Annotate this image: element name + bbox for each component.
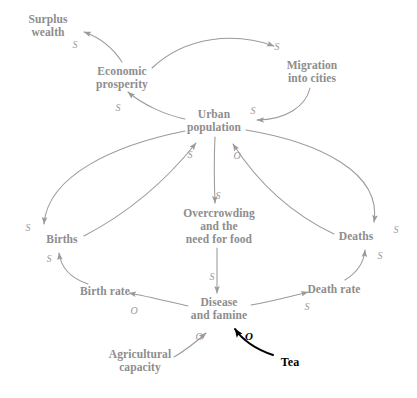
node-label-line: Births (46, 233, 77, 246)
edge-migration-to-urban (257, 88, 310, 120)
node-label-line: Urban (187, 108, 241, 121)
node-deaths: Deaths (339, 230, 373, 243)
node-label-line: capacity (109, 361, 172, 374)
polarity-economic-migration: S (275, 42, 280, 52)
node-label-line: Death rate (307, 283, 360, 296)
polarity-overcrowding-disease: S (210, 272, 215, 282)
node-economic-prosperity: Economic prosperity (96, 65, 148, 91)
edge-urban-to-births (44, 131, 185, 224)
node-urban-population: Urban population (187, 108, 241, 134)
polarity-migration-urban: S (251, 106, 256, 116)
node-label-line: prosperity (96, 78, 148, 91)
node-birth-rate: Birth rate (80, 285, 130, 298)
node-agricultural-capacity: Agricultural capacity (109, 348, 172, 374)
edge-tea-to-disease (235, 329, 273, 355)
polarity-economic-surplus: S (73, 40, 78, 50)
node-death-rate: Death rate (307, 283, 360, 296)
node-label-line: Economic (96, 65, 148, 78)
node-label-line: Overcrowding (183, 207, 255, 220)
edge-economic-to-migration (152, 38, 274, 68)
edge-disease-to-birthrate (129, 293, 188, 306)
node-label-line: Deaths (339, 230, 373, 243)
edge-births-to-urban (84, 143, 196, 236)
node-label-line: population (187, 121, 241, 134)
node-label-line: Migration (287, 59, 338, 72)
polarity-deathrate-deaths: S (378, 251, 383, 261)
node-surplus-wealth: Surplus wealth (28, 13, 67, 39)
edge-urban-to-deaths (246, 130, 375, 222)
node-label-line: need for food (183, 233, 255, 246)
polarity-urban-births: S (26, 223, 31, 233)
edge-urban-to-economic (128, 92, 185, 119)
polarity-deaths-urban: O (233, 151, 240, 161)
polarity-urban-economic: S (116, 103, 121, 113)
node-births: Births (46, 233, 77, 246)
edge-economic-to-surplus (84, 32, 122, 62)
node-label-line: Disease (191, 296, 247, 309)
node-label-line: into cities (287, 72, 338, 85)
node-label-line: and the (183, 220, 255, 233)
annotation-tea: Tea (281, 356, 300, 369)
polarity-urban-deaths: S (394, 225, 399, 235)
node-label-line: and famine (191, 309, 247, 322)
polarity-agricultural-disease: O (195, 332, 202, 342)
node-label-line: wealth (28, 26, 67, 39)
polarity-tea-disease: O (245, 331, 253, 341)
annotation-label: Tea (281, 356, 300, 369)
polarity-birthrate-births: S (47, 254, 52, 264)
node-label-line: Birth rate (80, 285, 130, 298)
edge-birthrate-to-births (59, 253, 88, 284)
node-migration-into-cities: Migration into cities (287, 59, 338, 85)
edge-deathrate-to-deaths (345, 250, 365, 280)
polarity-urban-overcrowding: S (216, 191, 221, 201)
node-disease-and-famine: Disease and famine (191, 296, 247, 322)
edge-disease-to-deathrate (251, 292, 308, 305)
node-label-line: Agricultural (109, 348, 172, 361)
node-overcrowding: Overcrowding and the need for food (183, 207, 255, 246)
node-label-line: Surplus (28, 13, 67, 26)
diagram-canvas (0, 0, 417, 398)
polarity-disease-deathrate: S (305, 302, 310, 312)
polarity-births-urban: S (188, 150, 193, 160)
causal-loop-diagram: Surplus wealth Economic prosperity Migra… (0, 0, 417, 398)
polarity-disease-birthrate: O (130, 306, 137, 316)
